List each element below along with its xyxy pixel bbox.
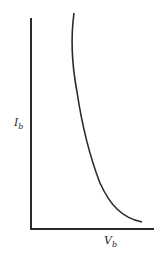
y-axis-label: Ib <box>13 116 23 131</box>
diagram-canvas: Ib Vb <box>0 0 167 256</box>
x-axis-label: Vb <box>104 234 117 249</box>
characteristic-curve <box>72 13 142 222</box>
